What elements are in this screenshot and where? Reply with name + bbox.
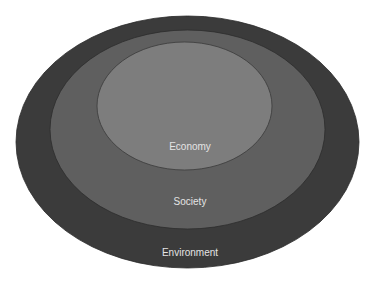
environment-label: Environment [162,247,218,258]
nested-ellipse-diagram: Economy Society Environment [0,0,373,283]
society-label: Society [174,196,207,207]
economy-label: Economy [169,141,211,152]
